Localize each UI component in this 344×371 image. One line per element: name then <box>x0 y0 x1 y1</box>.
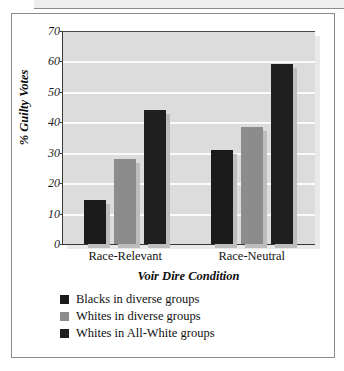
bar-chart: 010203040506070 Race-RelevantRace-Neutra… <box>0 0 344 371</box>
y-axis-tick-mark <box>60 183 63 184</box>
y-axis-tick-mark <box>60 153 63 154</box>
bar <box>84 200 106 244</box>
bar <box>211 150 233 244</box>
y-axis-tick-labels: 010203040506070 <box>30 31 60 245</box>
y-axis-tick-mark <box>60 61 63 62</box>
bar <box>114 159 136 244</box>
y-axis-tick-label: 20 <box>34 176 60 191</box>
legend-item: Whites in diverse groups <box>60 308 290 324</box>
y-axis-tick-mark <box>60 122 63 123</box>
x-axis-category-label: Race-Neutral <box>192 249 312 264</box>
y-axis-tick-mark <box>60 244 63 245</box>
bars-layer <box>62 31 315 244</box>
y-axis-tick-label: 70 <box>34 24 60 39</box>
legend-swatch-icon <box>60 329 69 338</box>
y-axis-title: % Guilty Votes <box>17 48 32 168</box>
x-axis-title: Voir Dire Condition <box>62 269 315 284</box>
legend-label: Whites in All-White groups <box>76 326 215 341</box>
y-axis-tick-label: 10 <box>34 206 60 221</box>
legend-item: Blacks in diverse groups <box>60 291 290 307</box>
y-axis-tick-label: 40 <box>34 115 60 130</box>
legend-label: Blacks in diverse groups <box>76 292 199 307</box>
y-axis-tick-label: 60 <box>34 54 60 69</box>
bar <box>241 127 263 244</box>
chart-legend: Blacks in diverse groupsWhites in divers… <box>60 291 290 342</box>
y-axis-tick-label: 50 <box>34 84 60 99</box>
legend-item: Whites in All-White groups <box>60 325 290 341</box>
legend-swatch-icon <box>60 295 69 304</box>
y-axis-tick-label: 0 <box>34 237 60 252</box>
legend-label: Whites in diverse groups <box>76 309 201 324</box>
y-axis-tick-mark <box>60 92 63 93</box>
bar <box>271 64 293 244</box>
legend-swatch-icon <box>60 312 69 321</box>
x-axis-category-label: Race-Relevant <box>65 249 185 264</box>
bar <box>144 110 166 244</box>
y-axis-tick-mark <box>60 31 63 32</box>
y-axis-tick-label: 30 <box>34 145 60 160</box>
y-axis-tick-mark <box>60 214 63 215</box>
